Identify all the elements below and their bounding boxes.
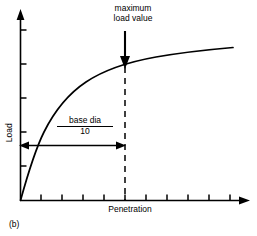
load-penetration-curve xyxy=(21,48,234,201)
fraction-numerator: base dia xyxy=(57,116,113,127)
base-dia-fraction-label: base dia 10 xyxy=(57,116,113,136)
load-penetration-figure: maximumload value base dia 10 Load Penet… xyxy=(0,0,257,236)
y-axis xyxy=(17,9,25,201)
annotation-line-1: maximum xyxy=(115,3,152,13)
figure-caption: (b) xyxy=(9,220,19,230)
y-axis-label: Load xyxy=(5,115,15,151)
y-axis-arrowhead xyxy=(17,9,25,20)
fraction-denominator: 10 xyxy=(57,127,113,137)
base-dia-dimension-arrow xyxy=(19,142,126,150)
chart-canvas xyxy=(0,0,257,236)
maximum-load-value-label: maximumload value xyxy=(96,4,170,23)
annotation-line-2: load value xyxy=(114,13,153,23)
x-axis-ticks xyxy=(41,195,230,201)
x-axis-arrowhead xyxy=(239,197,250,205)
x-axis-label: Penetration xyxy=(78,205,182,215)
